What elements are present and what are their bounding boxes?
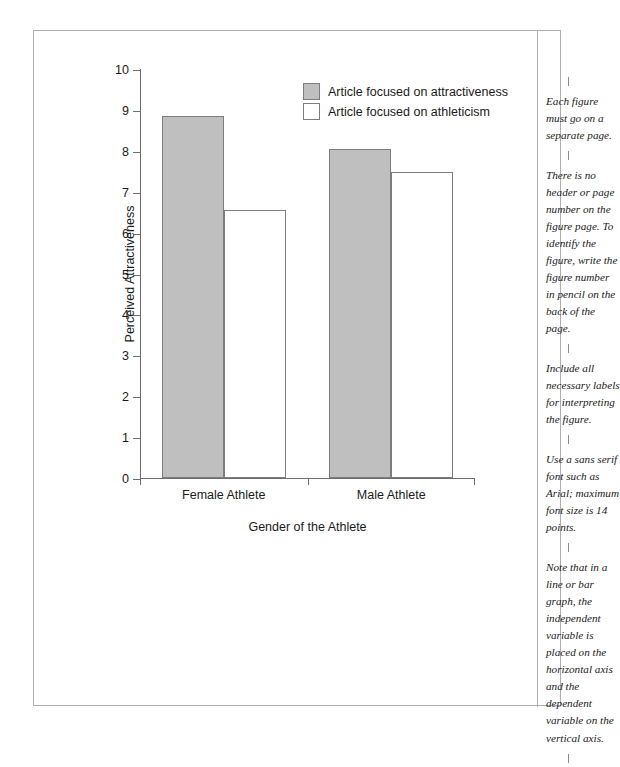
plot-area: Perceived Attractiveness 012345678910 Fe… [140,69,475,479]
y-axis-tick-label: 2 [122,390,129,404]
y-axis-tick-label: 8 [122,145,129,159]
bar-female-athlete-attractiveness [162,116,224,478]
y-axis-tick [133,315,140,316]
note-separator [568,344,569,353]
annotation-note: Each figure must go on a separate page. [546,93,620,144]
y-axis-tick-label: 9 [122,104,129,118]
y-axis-tick [133,152,140,153]
y-axis-tick [133,275,140,276]
note-separator [568,754,569,763]
annotation-note: Include all necessary labels for interpr… [546,360,620,428]
bar-female-athlete-athleticism [224,210,286,478]
page-divider [537,31,538,707]
y-axis-tick-label: 5 [122,268,129,282]
y-axis-tick [133,111,140,112]
note-separator [568,435,569,444]
x-axis-tick [308,478,309,485]
y-axis-tick [133,397,140,398]
y-axis-tick-label: 7 [122,186,129,200]
annotation-note: Note that in a line or bar graph, the in… [546,559,620,746]
note-separator [568,543,569,552]
y-axis-tick-label: 4 [122,308,129,322]
y-axis-tick [133,70,140,71]
annotation-note: Use a sans serif font such as Arial; max… [546,451,620,536]
y-axis-tick [133,438,140,439]
figure-page: Article focused on attractiveness Articl… [33,30,561,706]
y-axis-tick [133,356,140,357]
y-axis-tick [133,193,140,194]
y-axis [140,69,141,479]
y-axis-tick-label: 3 [122,349,129,363]
annotation-note: There is no header or page number on the… [546,167,620,337]
y-axis-tick-label: 6 [122,227,129,241]
y-axis-tick-label: 10 [115,63,129,77]
y-axis-tick-label: 0 [122,472,129,486]
x-axis-tick [140,478,141,485]
note-separator [568,151,569,160]
y-axis-tick [133,479,140,480]
y-axis-tick [133,234,140,235]
x-axis-category-label: Male Athlete [357,488,426,502]
y-axis-tick-label: 1 [122,431,129,445]
notes-column: Each figure must go on a separate page.T… [546,77,620,767]
x-axis-title: Gender of the Athlete [248,520,366,534]
x-axis-tick [474,478,475,485]
note-separator [568,77,569,86]
bar-chart: Article focused on attractiveness Articl… [34,31,537,707]
bar-male-athlete-athleticism [391,172,453,478]
x-axis-category-label: Female Athlete [182,488,265,502]
bar-male-athlete-attractiveness [329,149,391,478]
